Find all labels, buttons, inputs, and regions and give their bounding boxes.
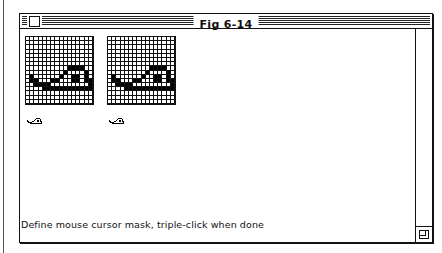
status-message: Define mouse cursor mask, triple-click w… [21, 219, 264, 230]
content-area: Define mouse cursor mask, triple-click w… [20, 29, 415, 242]
size-box-icon[interactable] [416, 226, 432, 242]
cursor-mask-editor-grid[interactable] [107, 36, 176, 105]
grid-cell[interactable] [89, 100, 93, 104]
close-box-icon[interactable] [29, 16, 40, 27]
fig-window: Fig 6-14 Define mouse cursor mask, tripl… [19, 13, 433, 243]
snail-cursor-icon [26, 111, 42, 127]
grid-cell[interactable] [171, 100, 175, 104]
size-box-glyph [419, 230, 429, 239]
vertical-scrollbar[interactable] [415, 29, 432, 242]
cursor-data-editor-grid[interactable] [25, 36, 94, 105]
snail-cursor-icon [108, 111, 124, 127]
title-bar[interactable]: Fig 6-14 [20, 14, 432, 29]
window-title-wrap: Fig 6-14 [194, 14, 259, 28]
page-edge [3, 0, 4, 253]
